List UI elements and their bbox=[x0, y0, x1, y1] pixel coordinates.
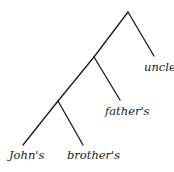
leaf-fathers: father's bbox=[105, 106, 150, 118]
edge-low-brothers bbox=[58, 101, 83, 145]
edge-mid-fathers bbox=[94, 57, 120, 100]
leaf-uncle: uncle bbox=[144, 62, 174, 74]
tree-edges bbox=[23, 12, 154, 145]
edge-root-uncle bbox=[128, 12, 154, 56]
leaf-johns: John's bbox=[9, 150, 44, 162]
edge-mid-low bbox=[58, 57, 94, 101]
edge-low-johns bbox=[23, 101, 58, 145]
leaf-brothers: brother's bbox=[67, 150, 120, 162]
edge-root-mid bbox=[94, 12, 128, 57]
tree-diagram bbox=[0, 0, 174, 172]
